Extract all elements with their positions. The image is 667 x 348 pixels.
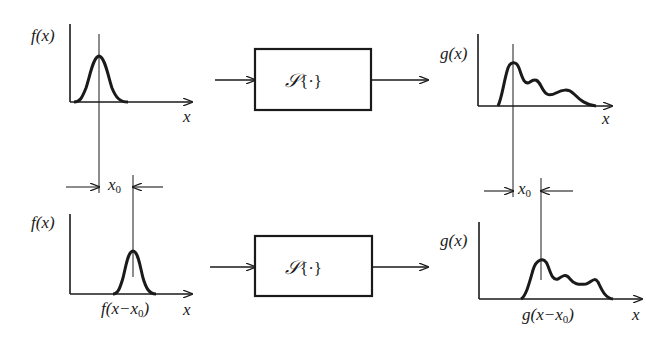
top-input-xlabel: x <box>183 108 191 125</box>
caption-end: ) <box>568 305 574 324</box>
shift-invariance-diagram: f(x) x 𝒮{·} g(x) x x0 x0 f(x) x f(x−x0) … <box>0 0 667 348</box>
top-system-label: 𝒮{·} <box>285 71 322 90</box>
gaussian-curve <box>74 56 128 102</box>
shifted-gaussian-curve <box>113 251 156 294</box>
top-output-ylabel: g(x) <box>440 45 467 62</box>
top-output-xlabel: x <box>602 110 610 127</box>
caption-end: ) <box>143 299 149 318</box>
caption-main: f(x−x <box>101 299 138 318</box>
system-operator-arg: {·} <box>300 72 322 91</box>
bottom-input-ylabel: f(x) <box>31 214 55 231</box>
diagram-canvas <box>0 0 667 348</box>
system-operator-symbol: 𝒮 <box>285 257 300 278</box>
bottom-input-xlabel: x <box>183 301 191 318</box>
bottom-output-xlabel: x <box>632 306 640 323</box>
bottom-input-caption: f(x−x0) <box>101 300 149 319</box>
bottom-output-caption: g(x−x0) <box>522 306 574 325</box>
bottom-output-ylabel: g(x) <box>440 232 467 249</box>
right-shift-label: x0 <box>518 180 531 199</box>
caption-main: g(x−x <box>522 305 563 324</box>
bottom-output-plot <box>479 178 642 299</box>
shift-symbol: x <box>108 175 116 194</box>
shifted-response-curve <box>521 260 613 299</box>
shift-subscript: 0 <box>526 187 532 199</box>
left-shift-label: x0 <box>108 176 121 195</box>
bottom-input-plot <box>70 175 192 294</box>
shift-symbol: x <box>518 179 526 198</box>
top-input-ylabel: f(x) <box>31 27 55 44</box>
shift-subscript: 0 <box>116 183 122 195</box>
top-output-plot <box>478 34 612 197</box>
top-input-plot <box>70 24 192 193</box>
bottom-system-label: 𝒮{·} <box>285 258 322 277</box>
system-operator-symbol: 𝒮 <box>285 70 300 91</box>
system-operator-arg: {·} <box>300 259 322 278</box>
